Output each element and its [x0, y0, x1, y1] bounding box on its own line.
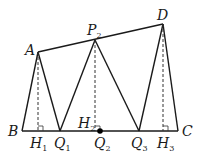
label-q3: Q3 [131, 135, 148, 153]
label-h1: H1 [29, 135, 47, 153]
label-a: A [23, 42, 35, 58]
label-q2: Q2 [94, 135, 111, 153]
dashed-altitudes [38, 24, 163, 131]
point-q2-dot [97, 128, 103, 134]
label-d: D [156, 7, 168, 23]
label-q1: Q1 [54, 135, 71, 153]
geometry-diagram: A P2 D B C H1 Q1 H2 Q2 Q3 H3 [0, 0, 203, 165]
label-h3: H3 [156, 135, 174, 153]
label-p2: P2 [86, 22, 102, 40]
label-c: C [182, 123, 193, 139]
label-b: B [7, 123, 18, 139]
right-angle-marks [38, 126, 168, 131]
solid-segments [22, 24, 178, 131]
label-h2: H2 [77, 115, 95, 133]
